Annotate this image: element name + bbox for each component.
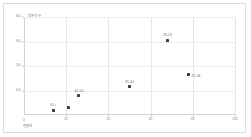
data-point-label: 65+ [51,104,57,107]
y-tick-label: 100 [15,89,21,92]
grid-line-horizontal [24,17,235,18]
origin-tick-label: 0 [23,119,25,122]
y-tick-mark [22,90,24,91]
grid-line-vertical [235,17,236,115]
y-tick-label: 300 [15,40,21,43]
y-tick-mark [22,41,24,42]
x-tick-label: 80 [191,118,195,121]
plot-area: 100200300400 20406080100 65+45-5435-4418… [24,17,235,115]
grid-line-horizontal [24,91,235,92]
x-axis-line [24,114,235,115]
data-point-label: 45-54 [74,90,83,93]
x-tick-mark [108,115,109,117]
x-tick-label: 40 [107,118,111,121]
x-tick-mark [193,115,194,117]
data-point-label: 35-44 [125,81,134,84]
grid-line-horizontal [24,42,235,43]
data-point-marker[interactable] [187,73,190,76]
x-tick-mark [151,115,152,117]
data-point-label: 25-34 [192,75,201,78]
grid-line-horizontal [24,66,235,67]
data-point-marker[interactable] [67,106,70,109]
data-point-marker[interactable] [77,94,80,97]
x-tick-label: 100 [232,118,238,121]
y-tick-label: 200 [15,64,21,67]
x-tick-mark [66,115,67,117]
y-tick-label: 400 [15,15,21,18]
y-tick-mark [22,17,24,18]
x-tick-label: 60 [149,118,153,121]
data-point-marker[interactable] [166,39,169,42]
x-axis-title: 연령대 [23,125,32,128]
y-tick-mark [22,66,24,67]
x-tick-mark [235,115,236,117]
data-point-label: 18-24 [163,34,172,37]
chart-card: 방문객 수 100200300400 20406080100 65+45-543… [3,3,246,133]
data-point-marker[interactable] [52,109,55,112]
x-tick-label: 20 [64,118,68,121]
data-point-marker[interactable] [128,85,131,88]
